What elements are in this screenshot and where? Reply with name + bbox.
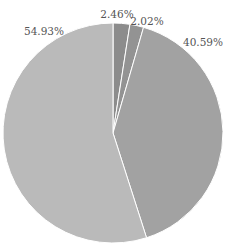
slice-label-3: 54.93% [24, 25, 64, 37]
pie-slices [3, 23, 223, 243]
slice-label-0: 2.46% [100, 8, 133, 20]
pie-chart: 2.46% 2.02% 40.59% 54.93% [0, 0, 226, 249]
slice-label-2: 40.59% [183, 36, 223, 48]
slice-label-1: 2.02% [130, 15, 163, 27]
